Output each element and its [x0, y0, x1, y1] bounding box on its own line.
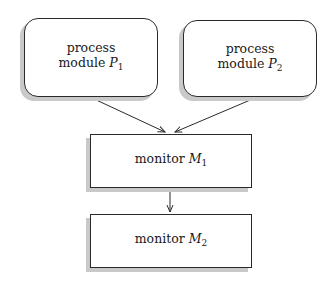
symbol-subscript: 1 — [118, 62, 124, 72]
node-symbol: M1 — [189, 151, 208, 166]
process-module-p1-node: process module P1 — [24, 18, 158, 97]
edge-p2-to-m1 — [175, 98, 255, 132]
symbol-subscript: 2 — [202, 238, 208, 248]
node-symbol: M2 — [189, 231, 208, 246]
node-symbol: P2 — [268, 56, 282, 71]
edge-p1-to-m1 — [92, 98, 165, 132]
monitor-m1-node: monitor M1 — [90, 134, 252, 188]
monitor-m2-node: monitor M2 — [90, 214, 252, 268]
node-line1: process — [226, 41, 275, 56]
node-line2: module P2 — [218, 56, 283, 76]
node-prefix: module — [218, 56, 265, 71]
node-prefix: monitor — [135, 151, 185, 166]
symbol-letter: M — [189, 231, 202, 246]
process-module-p2-node: process module P2 — [183, 20, 317, 97]
node-prefix: module — [59, 55, 106, 70]
node-symbol: P1 — [109, 55, 123, 70]
node-label: monitor M1 — [135, 151, 207, 171]
symbol-letter: P — [109, 55, 117, 70]
symbol-letter: M — [189, 151, 202, 166]
node-prefix: monitor — [135, 231, 185, 246]
symbol-letter: P — [268, 56, 276, 71]
node-label: monitor M2 — [135, 231, 207, 251]
symbol-subscript: 1 — [202, 158, 208, 168]
symbol-subscript: 2 — [277, 63, 283, 73]
node-line2: module P1 — [59, 55, 124, 75]
node-line1: process — [67, 40, 116, 55]
